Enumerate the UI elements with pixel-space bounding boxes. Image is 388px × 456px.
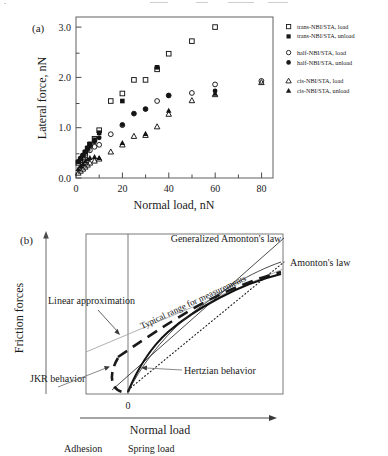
data-point <box>154 124 160 129</box>
legend-label-2: half-NBI/STA, load <box>297 49 347 56</box>
data-point <box>120 140 126 145</box>
panel-a-ytick-1: 1.0 <box>59 122 72 133</box>
panel-a: (a) <box>0 8 388 220</box>
data-point <box>155 65 160 70</box>
panel-a-legend: trans-NBI/STA, load trans-NBI/STA, unloa… <box>286 23 356 94</box>
data-point <box>92 139 97 144</box>
panel-b-diagram: (b) Friction forces <box>0 222 388 456</box>
panel-b-spring-load-label: Spring load <box>128 443 174 454</box>
panel-b-tag: (b) <box>20 234 33 247</box>
panel-b: (b) Friction forces <box>0 222 388 456</box>
label-jkr-behavior: JKR behavior <box>30 373 86 384</box>
panel-a-xtick-60: 60 <box>210 183 220 194</box>
leader-linear-approximation <box>98 310 120 335</box>
data-point <box>213 25 218 30</box>
data-point <box>143 107 148 112</box>
data-point <box>132 111 137 116</box>
panel-a-y-axis-title: Lateral force, nN <box>35 57 49 140</box>
data-point <box>108 132 113 137</box>
data-point <box>143 78 148 83</box>
data-point <box>97 130 102 135</box>
panel-a-chart: (a) <box>0 8 388 220</box>
data-point <box>166 108 172 113</box>
panel-b-origin-label: 0 <box>126 400 131 411</box>
legend-label-3: half-NBI/STA, unload <box>297 59 353 66</box>
data-point <box>143 131 149 136</box>
data-point <box>166 93 171 98</box>
normal-load-arrow-icon <box>269 415 277 421</box>
legend-marker-open-square <box>287 25 291 29</box>
panel-b-normal-load-axis <box>80 415 277 421</box>
data-point <box>108 99 113 104</box>
data-point <box>88 143 93 148</box>
panel-a-xtick-0: 0 <box>74 183 79 194</box>
data-point <box>120 99 125 104</box>
panel-a-xtick-80: 80 <box>257 183 267 194</box>
data-point <box>189 91 194 96</box>
data-point <box>97 142 102 147</box>
data-point <box>189 98 195 103</box>
data-point <box>97 135 102 140</box>
panel-a-x-axis-title: Normal load, nN <box>134 198 215 212</box>
panel-b-x-axis-title: Normal load <box>130 423 190 437</box>
panel-a-xtick-40: 40 <box>164 183 174 194</box>
legend-marker-open-triangle <box>286 78 291 83</box>
figure-root: (a) <box>0 0 388 456</box>
panel-a-tag: (a) <box>32 22 45 35</box>
label-typical-range: Typical range for measurements <box>139 273 248 331</box>
data-point <box>92 154 98 159</box>
data-point <box>132 78 137 83</box>
panel-a-xtick-20: 20 <box>117 183 127 194</box>
friction-axis-arrow-icon <box>43 231 49 239</box>
label-generalized-amonton: Generalized Amonton's law <box>171 233 282 244</box>
legend-marker-open-circle <box>286 50 290 54</box>
legend-marker-filled-square <box>287 34 291 38</box>
data-point <box>96 155 102 160</box>
legend-label-1: trans-NBI/STA, unload <box>297 32 355 39</box>
data-point <box>166 51 171 56</box>
data-point <box>92 144 97 149</box>
label-linear-approximation: Linear approximation <box>48 295 135 306</box>
legend-label-0: trans-NBI/STA, load <box>297 23 349 30</box>
panel-a-plot-frame <box>76 17 273 178</box>
panel-a-x-ticks <box>76 173 262 179</box>
panel-b-adhesion-label: Adhesion <box>64 443 102 454</box>
data-point <box>213 82 218 87</box>
label-amonton: Amonton's law <box>290 257 351 268</box>
panel-b-friction-axis <box>43 231 49 394</box>
data-point <box>108 149 114 154</box>
data-point <box>120 91 125 96</box>
legend-label-4: cis-NBI/STA, load <box>297 77 344 84</box>
panel-a-ytick-2: 2.0 <box>59 72 72 83</box>
leader-hertzian-behavior <box>141 365 182 370</box>
data-point <box>120 122 125 127</box>
legend-marker-filled-circle <box>286 60 291 65</box>
panel-a-ytick-3: 3.0 <box>59 22 72 33</box>
legend-marker-filled-triangle <box>286 88 291 93</box>
scan-artifact-top <box>0 0 388 8</box>
panel-b-y-axis-title: Friction forces <box>12 283 26 354</box>
data-point <box>131 133 137 138</box>
label-hertzian-behavior: Hertzian behavior <box>184 365 257 376</box>
data-point <box>190 39 195 44</box>
panel-a-data-points <box>76 25 265 175</box>
curve-jkr-behavior <box>112 358 128 392</box>
legend-label-5: cis-NBI/STA, unload <box>297 87 350 94</box>
panel-a-ytick-0: 0.0 <box>59 173 72 184</box>
data-point <box>155 99 160 104</box>
